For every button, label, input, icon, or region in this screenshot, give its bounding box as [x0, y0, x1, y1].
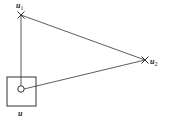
- label-u: u: [18, 109, 23, 118]
- triangle-diagram: u1 u2 u: [0, 0, 172, 125]
- label-u1: u1: [16, 1, 23, 11]
- node-u-circle: [18, 86, 24, 92]
- label-u2: u2: [150, 57, 157, 67]
- edge-u-u2: [24, 60, 145, 89]
- node-u2-cross-icon: [142, 57, 149, 64]
- edge-u1-u2: [21, 15, 145, 60]
- node-u-square: [7, 77, 36, 106]
